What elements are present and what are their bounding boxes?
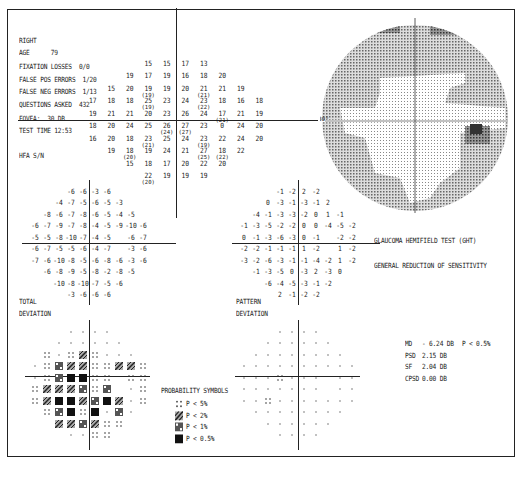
threshold-cell: 19	[86, 109, 100, 117]
normal-point-icon	[79, 424, 87, 432]
normal-point-icon	[252, 378, 260, 386]
normal-point-icon	[312, 321, 320, 329]
legend-item: P < 5%	[175, 399, 207, 409]
threshold-cell: 21	[178, 146, 192, 154]
p-half-percent-icon	[67, 367, 75, 375]
p-2-percent-icon	[91, 413, 99, 421]
p-half-percent-icon	[103, 390, 111, 398]
threshold-cell: 18	[252, 96, 266, 104]
threshold-cell: 24	[234, 134, 248, 142]
threshold-cell: 24	[178, 134, 192, 142]
total-deviation-cell: -5	[124, 267, 138, 275]
pattern-deviation-cell: -2	[345, 244, 359, 252]
normal-point-icon	[300, 424, 308, 432]
normal-point-icon	[240, 355, 248, 363]
threshold-retest-value: (22)	[214, 154, 230, 160]
index-label: MD	[405, 339, 412, 347]
p-2-percent-icon	[79, 355, 87, 363]
threshold-cell: 22	[197, 159, 211, 167]
index-probability: P < 0.5%	[462, 339, 490, 347]
threshold-cell: 21	[234, 109, 248, 117]
p-5-percent-icon	[79, 401, 87, 409]
normal-point-icon	[31, 355, 39, 363]
ght-result: GENERAL REDUCTION OF SENSITIVITY	[374, 261, 487, 269]
normal-point-icon	[264, 344, 272, 352]
legend-item: P < 0.5%	[175, 434, 214, 444]
normal-point-icon	[348, 355, 356, 363]
p-2-percent-icon	[115, 355, 123, 363]
p-2-percent-icon	[43, 378, 51, 386]
legend-symbol-icon	[175, 411, 183, 421]
threshold-retest-value: (21)	[196, 92, 212, 98]
p-5-percent-icon	[139, 390, 147, 398]
threshold-cell: 18	[86, 121, 100, 129]
normal-point-icon	[300, 355, 308, 363]
p-half-percent-icon	[79, 367, 87, 375]
normal-point-icon	[288, 332, 296, 340]
threshold-cell: 20	[215, 71, 229, 79]
pattern-deviation-cell: -2	[345, 221, 359, 229]
threshold-cell: 24	[123, 121, 137, 129]
p-1-percent-icon	[103, 378, 111, 386]
p-2-percent-icon	[67, 355, 75, 363]
legend-label: P < 2%	[186, 411, 207, 419]
normal-point-icon	[31, 367, 39, 375]
threshold-cell: 25	[141, 121, 155, 129]
threshold-cell: 20	[178, 84, 192, 92]
p-5-percent-icon	[31, 378, 39, 386]
normal-point-icon	[264, 332, 272, 340]
p-1-percent-icon	[55, 355, 63, 363]
questions-label: QUESTIONS ASKED	[19, 101, 72, 109]
normal-point-icon	[55, 332, 63, 340]
total-deviation-cell: -6	[100, 290, 114, 298]
p-5-percent-icon	[91, 344, 99, 352]
p-5-percent-icon	[115, 413, 123, 421]
threshold-cell: 18	[123, 134, 137, 142]
normal-point-icon	[264, 355, 272, 363]
p-2-percent-icon	[67, 378, 75, 386]
threshold-cell: 16	[178, 71, 192, 79]
normal-point-icon	[336, 355, 344, 363]
threshold-cell: 20	[104, 121, 118, 129]
total-deviation-cell: -6	[112, 279, 126, 287]
threshold-retest-value: (20)	[140, 179, 156, 185]
threshold-cell: 16	[234, 96, 248, 104]
total-deviation-cell: -7	[100, 244, 114, 252]
normal-point-icon	[312, 401, 320, 409]
p-half-percent-icon	[55, 390, 63, 398]
eye-label: RIGHT	[19, 36, 97, 49]
threshold-cell: 20	[252, 134, 266, 142]
threshold-cell: 15	[160, 59, 174, 67]
legend-label: P < 0.5%	[186, 434, 214, 442]
threshold-cell: 13	[197, 59, 211, 67]
threshold-cell: 18	[123, 96, 137, 104]
threshold-cell: 19	[234, 84, 248, 92]
threshold-cell: 15	[141, 59, 155, 67]
total-prob-vertical-axis	[89, 320, 90, 450]
normal-point-icon	[336, 378, 344, 386]
normal-point-icon	[312, 355, 320, 363]
index-value: 0.00 DB	[422, 374, 447, 382]
normal-point-icon	[91, 332, 99, 340]
false-pos-value: 1/20	[82, 75, 96, 83]
normal-point-icon	[312, 378, 320, 386]
normal-point-icon	[300, 378, 308, 386]
normal-point-icon	[300, 367, 308, 375]
threshold-retest-value: (21)	[140, 142, 156, 148]
threshold-cell: 15	[104, 84, 118, 92]
threshold-cell: 17	[86, 96, 100, 104]
total-deviation-cell: -5	[100, 233, 114, 241]
p-5-percent-icon	[103, 424, 111, 432]
grayscale-map: 30°	[320, 8, 510, 213]
normal-point-icon	[276, 344, 284, 352]
threshold-cell: 21	[104, 109, 118, 117]
pattern-deviation-cell: -2	[309, 290, 323, 298]
threshold-retest-value: (24)	[159, 129, 175, 135]
normal-point-icon	[324, 390, 332, 398]
p-5-percent-icon	[43, 401, 51, 409]
normal-point-icon	[264, 401, 272, 409]
deviation-label: DEVIATION	[19, 307, 51, 320]
false-neg-value: 1/13	[82, 88, 96, 96]
index-value: 2.15 DB	[422, 351, 447, 359]
normal-point-icon	[67, 424, 75, 432]
